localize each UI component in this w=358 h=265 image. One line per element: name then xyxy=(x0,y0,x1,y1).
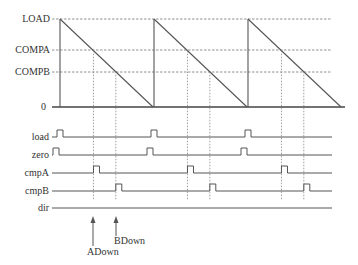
signal-label-cmpa: cmpA xyxy=(25,167,50,178)
counter-ramp xyxy=(248,19,341,107)
annotation-bdown: BDown xyxy=(114,235,145,246)
cmpa-signal-trace xyxy=(52,166,332,173)
annotation-adown: ADown xyxy=(87,246,119,257)
signal-label-load: load xyxy=(32,131,49,142)
signal-label-dir: dir xyxy=(38,202,50,213)
level-label-zero: 0 xyxy=(41,101,46,112)
counter-ramp xyxy=(154,19,247,107)
compare-event-guides xyxy=(93,51,303,200)
signal-label-zero: zero xyxy=(32,149,49,160)
level-label-compb: COMPB xyxy=(15,66,50,77)
signal-label-cmpb: cmpB xyxy=(25,185,49,196)
timing-diagram: LOAD COMPA COMPB 0 load zero cmpA cmpB d… xyxy=(0,0,358,265)
load-signal-trace xyxy=(52,130,332,137)
cmpb-signal-trace xyxy=(52,184,332,191)
adown-arrow-head-icon xyxy=(91,216,96,223)
signal-traces xyxy=(52,130,332,208)
level-label-compa: COMPA xyxy=(15,44,50,55)
zero-signal-trace xyxy=(52,148,332,155)
bdown-arrow-head-icon xyxy=(114,216,119,223)
level-label-load: LOAD xyxy=(22,13,50,24)
counter-waveform xyxy=(60,19,341,107)
counter-ramp xyxy=(60,19,153,107)
